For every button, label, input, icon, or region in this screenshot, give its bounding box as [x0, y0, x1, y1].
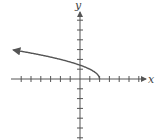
x-axis-label: x: [148, 73, 155, 86]
curve-sqrt-2-minus-x: [13, 50, 99, 79]
function-graph: x y: [0, 0, 156, 140]
x-axis: [11, 76, 146, 82]
y-axis-label: y: [74, 0, 82, 12]
y-axis: [77, 12, 83, 140]
